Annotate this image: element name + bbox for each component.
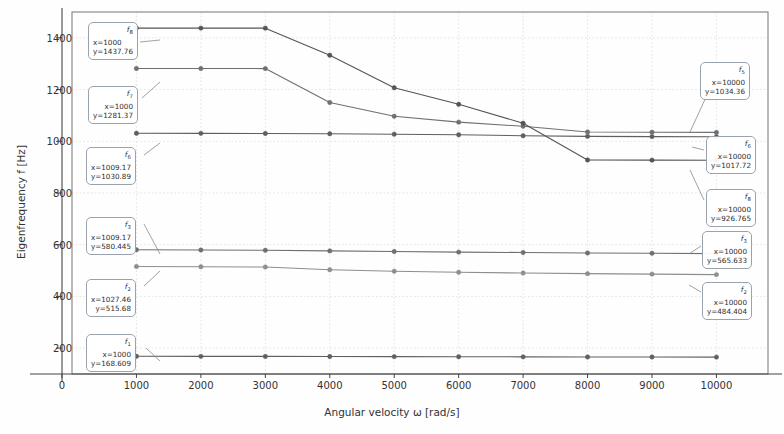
- annotation-y-value: y=1034.36: [705, 87, 745, 96]
- chart-canvas: Angular velocity ω [rad/s] Eigenfrequenc…: [0, 0, 784, 434]
- annotation-f3: f3x=1009.17y=580.445: [86, 217, 136, 255]
- annotation-x-value: x=10000: [711, 152, 751, 161]
- annotation-x-value: x=1000: [93, 38, 133, 47]
- x-axis-label: Angular velocity ω [rad/s]: [0, 406, 784, 418]
- annotation-f5: f5x=10000y=1034.36: [700, 62, 750, 100]
- x-tick-label: 5000: [381, 380, 406, 391]
- annotation-series-name: f8: [711, 192, 751, 205]
- x-tick-label: 7000: [510, 380, 535, 391]
- annotation-x-value: x=1009.17: [91, 163, 131, 172]
- annotation-x-value: x=10000: [707, 298, 747, 307]
- x-tick-label: 2000: [188, 380, 213, 391]
- annotation-y-value: y=168.609: [91, 359, 131, 368]
- x-tick-label: 8000: [575, 380, 600, 391]
- annotation-x-value: x=10000: [711, 205, 751, 214]
- annotation-f6: f6x=10000y=1017.72: [706, 136, 756, 174]
- y-tick-label: 800: [53, 188, 72, 199]
- annotation-x-value: x=1027.46: [91, 295, 131, 304]
- annotation-series-name: f6: [711, 139, 751, 152]
- y-tick-label: 1400: [47, 32, 72, 43]
- annotation-f2: f2x=1027.46y=515.68: [86, 279, 136, 317]
- y-axis-label: Eigenfrequency f [Hz]: [15, 117, 27, 287]
- annotation-series-name: f3: [91, 220, 131, 233]
- annotation-x-value: x=1000: [93, 102, 133, 111]
- annotation-y-value: y=515.68: [91, 304, 131, 313]
- annotation-series-name: f2: [707, 285, 747, 298]
- annotation-series-name: f8: [93, 25, 133, 38]
- x-tick-label: 9000: [639, 380, 664, 391]
- annotation-f8: f8x=1000y=1437.76: [88, 22, 138, 60]
- annotation-f8: f8x=10000y=926.765: [706, 189, 756, 227]
- annotation-y-value: y=926.765: [711, 214, 751, 223]
- annotation-series-name: f3: [707, 234, 747, 247]
- annotation-x-value: x=1000: [91, 350, 131, 359]
- annotation-series-name: f1: [91, 337, 131, 350]
- x-tick-label: 4000: [317, 380, 342, 391]
- annotation-series-name: f5: [705, 65, 745, 78]
- annotation-x-value: x=1009.17: [91, 233, 131, 242]
- annotation-y-value: y=580.445: [91, 242, 131, 251]
- annotation-y-value: y=1030.89: [91, 172, 131, 181]
- y-tick-label: 400: [53, 291, 72, 302]
- y-tick-label: 1000: [47, 136, 72, 147]
- x-tick-label: 6000: [446, 380, 471, 391]
- annotation-series-name: f2: [91, 282, 131, 295]
- x-tick-label: 3000: [253, 380, 278, 391]
- annotation-x-value: x=10000: [707, 247, 747, 256]
- annotation-y-value: y=484.404: [707, 307, 747, 316]
- annotation-series-name: f7: [93, 89, 133, 102]
- annotation-f1: f1x=1000y=168.609: [86, 334, 136, 372]
- y-tick-label: 1200: [47, 84, 72, 95]
- annotation-f6: f6x=1009.17y=1030.89: [86, 147, 136, 185]
- annotation-f7: f7x=1000y=1281.37: [88, 86, 138, 124]
- x-tick-label: 0: [59, 380, 65, 391]
- annotation-y-value: y=565.633: [707, 256, 747, 265]
- x-tick-label: 10000: [701, 380, 733, 391]
- x-tick-label: 1000: [124, 380, 149, 391]
- annotation-f2: f2x=10000y=484.404: [702, 282, 752, 320]
- annotation-x-value: x=10000: [705, 78, 745, 87]
- annotation-series-name: f6: [91, 150, 131, 163]
- annotation-y-value: y=1437.76: [93, 47, 133, 56]
- annotation-y-value: y=1281.37: [93, 111, 133, 120]
- annotation-f3: f3x=10000y=565.633: [702, 231, 752, 269]
- y-tick-label: 600: [53, 239, 72, 250]
- annotation-y-value: y=1017.72: [711, 161, 751, 170]
- y-tick-label: 200: [53, 343, 72, 354]
